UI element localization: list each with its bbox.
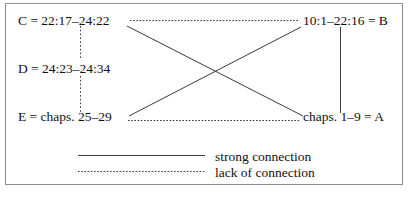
legend-label-strong-connection: strong connection (215, 150, 311, 164)
node-label-d: D = 24:23–24:34 (18, 62, 110, 76)
diagram-connections-layer (0, 0, 409, 197)
diagram-canvas: C = 22:17–24:22 D = 24:23–24:34 E = chap… (0, 0, 409, 197)
node-label-e: E = chaps. 25–29 (18, 110, 112, 124)
node-label-a: chaps. 1–9 = A (303, 110, 384, 124)
node-label-c: C = 22:17–24:22 (18, 14, 110, 28)
legend-label-lack-of-connection: lack of connection (215, 166, 315, 180)
node-label-b: 10:1–22:16 = B (303, 14, 388, 28)
